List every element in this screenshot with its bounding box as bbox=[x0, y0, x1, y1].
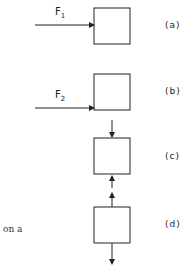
force-diagram: F1 F2 (a) (b) (c) (d) on a bbox=[0, 0, 189, 269]
block-c bbox=[94, 138, 130, 174]
force-label-f2: F2 bbox=[55, 89, 65, 103]
panel-label-b: (b) bbox=[165, 86, 181, 96]
panel-label-d: (d) bbox=[165, 219, 181, 229]
caption-fragment: on a bbox=[3, 224, 22, 234]
block-d bbox=[94, 207, 130, 243]
panel-b bbox=[35, 74, 130, 110]
panel-label-c: (c) bbox=[165, 151, 180, 161]
diagram-canvas bbox=[0, 0, 189, 269]
force-label-f1: F1 bbox=[55, 6, 65, 20]
panel-d bbox=[94, 193, 130, 264]
force-subscript: 2 bbox=[61, 95, 65, 103]
block-a bbox=[94, 8, 130, 44]
panel-label-a: (a) bbox=[165, 20, 181, 30]
force-subscript: 1 bbox=[61, 12, 65, 20]
block-b bbox=[94, 74, 130, 110]
panel-c bbox=[94, 120, 130, 188]
panel-a bbox=[35, 8, 130, 44]
